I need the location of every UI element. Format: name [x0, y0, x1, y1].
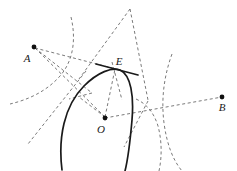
geometry-canvas: AEOB — [0, 0, 237, 171]
label-A: A — [23, 52, 31, 64]
vertex-points-group — [32, 45, 225, 121]
construction-lines-group — [28, 9, 222, 147]
dashed-line-node-to-bottomright — [124, 101, 148, 147]
dashed-line-E-through-down — [112, 62, 122, 100]
label-B: B — [219, 101, 226, 113]
dashed-line-O-to-E — [105, 69, 115, 117]
label-O: O — [97, 123, 105, 135]
construction-arcs-group — [10, 17, 182, 171]
label-E: E — [115, 55, 123, 67]
dashed-arc-left-upper — [10, 17, 73, 104]
dashed-line-lower-left — [28, 71, 86, 144]
dashed-arc-right-outer — [163, 54, 182, 171]
dashed-line-peak-right — [130, 9, 148, 100]
dashed-line-O-to-upleft — [79, 97, 105, 117]
geometry-figure: AEOB — [0, 0, 237, 171]
point-A — [32, 45, 37, 50]
point-B — [220, 95, 225, 100]
point-labels-group: AEOB — [23, 52, 226, 135]
dashed-line-peak-left — [79, 9, 130, 79]
point-O — [103, 116, 108, 121]
dashed-arc-right-inner — [136, 99, 161, 171]
